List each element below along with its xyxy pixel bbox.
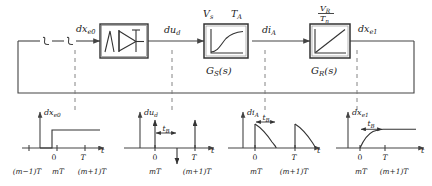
block-gr-label-numerator: VR: [320, 4, 331, 14]
diagram-svg: dxe0 dud diA dxe1 Vs TA: [0, 0, 432, 186]
block-gs-label-transfer: GS(s): [206, 65, 232, 78]
plot-dxe1-ylabel: dxe1: [352, 108, 369, 118]
plot-dud-under-m1T: (m+1)T: [183, 167, 213, 176]
plot-dxe1-tick-0: 0: [358, 153, 363, 162]
plot-dia-under-mT: mT: [250, 167, 263, 176]
plot-dxe1-tb-label: tB: [367, 119, 374, 129]
block-diagram-group: [18, 24, 414, 112]
plot-dia-tb-label: tB: [262, 113, 269, 123]
plot-dud-tick-0: 0: [153, 153, 158, 162]
plot-dxe0: [22, 112, 104, 151]
plot-dxe0-xlabel: t: [101, 146, 105, 155]
plot-dxe1-rise-curve: [360, 129, 416, 148]
plot-dud-tb-label: tB: [162, 124, 169, 134]
block-gs-label-ta: TA: [231, 8, 242, 21]
plot-dud-under-mT: mT: [149, 167, 162, 176]
plot-dxe1-under-mT: mT: [355, 167, 368, 176]
signal-label-dxe1: dxe1: [358, 23, 378, 36]
plot-dxe0-tick-T: T: [80, 153, 86, 162]
plot-dia-xlabel: t: [317, 146, 321, 155]
signal-label-dia: diA: [262, 24, 276, 37]
block-gs[interactable]: [204, 24, 248, 58]
plot-dxe0-under-m1Tp: (m+1)T: [78, 167, 108, 176]
plot-dud-tick-T: T: [191, 153, 197, 162]
plot-dia-decay-curves: [255, 124, 316, 148]
plot-dud-ylabel: dud: [144, 108, 158, 118]
plot-dia: [228, 112, 320, 151]
plot-dia-tick-0: 0: [253, 153, 258, 162]
block-gr-label-transfer: GR(s): [311, 65, 337, 78]
plot-dia-under-m1T: (m+1)T: [280, 167, 310, 176]
plot-dud-impulses: [155, 120, 195, 164]
plot-dud: [124, 112, 214, 164]
plot-dxe1-tick-T: T: [382, 153, 388, 162]
plot-dxe0-under-mT: mT: [52, 167, 65, 176]
block-pulse-comparator[interactable]: [100, 24, 148, 58]
signal-label-dud: dud: [164, 24, 180, 37]
block-gs-label-vs: Vs: [203, 8, 214, 21]
sampling-guide-lines: [75, 50, 357, 112]
block-gr-label-denominator: Tn: [320, 14, 329, 24]
plot-dxe1: [336, 112, 424, 151]
signal-label-dxe0: dxe0: [76, 23, 96, 36]
plot-dud-xlabel: t: [211, 146, 215, 155]
plot-dxe1-xlabel: t: [421, 146, 425, 155]
plot-dxe0-ylabel: dxe0: [44, 108, 61, 118]
plot-dxe0-tick-0: 0: [52, 153, 57, 162]
plot-dxe0-step-curve: [40, 130, 100, 148]
plot-dia-ylabel: diA: [247, 108, 259, 118]
block-gr[interactable]: [310, 24, 350, 58]
plot-dia-tick-T: T: [291, 153, 297, 162]
plot-dxe1-under-m1T: (m+1)T: [380, 167, 410, 176]
diagram-canvas: dxe0 dud diA dxe1 Vs TA: [0, 0, 432, 186]
plot-dxe0-under-m1T: (m−1)T: [13, 167, 43, 176]
